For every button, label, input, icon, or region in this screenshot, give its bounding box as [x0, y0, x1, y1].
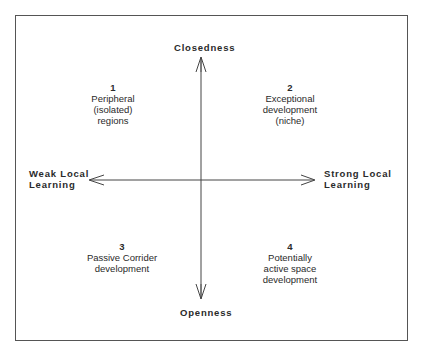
quadrant-4: 4 Potentially active space development — [245, 241, 335, 285]
axis-label-bottom: Openness — [180, 307, 232, 318]
axis-label-right: Strong Local Learning — [324, 168, 392, 190]
quadrant-2: 2 Exceptional development (niche) — [245, 82, 335, 126]
quadrant-1: 1 Peripheral (isolated) regions — [68, 82, 158, 126]
axis-label-left: Weak Local Learning — [29, 168, 89, 190]
axis-label-top: Closedness — [174, 42, 235, 53]
quadrant-3: 3 Passive Corrider development — [72, 241, 172, 274]
